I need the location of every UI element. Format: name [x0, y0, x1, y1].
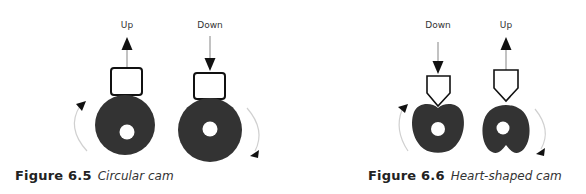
flat-follower — [194, 73, 225, 99]
figure-title: Heart-shaped cam — [451, 169, 562, 183]
cam-diagram: Up Down Down Up — [0, 0, 586, 194]
up-arrow-icon — [122, 37, 133, 50]
heart-cam-down: Down — [398, 20, 464, 153]
cam-shaft-hole — [431, 122, 445, 136]
rotation-arrow-icon — [536, 148, 545, 156]
cam-shaft-hole — [203, 122, 218, 137]
rotation-arc — [535, 109, 545, 149]
pointed-follower — [494, 70, 518, 101]
motion-label-down: Down — [425, 20, 451, 30]
figure-number: Figure 6.5 — [15, 168, 92, 183]
rotation-arc — [399, 110, 408, 151]
figure-caption-6-5: Figure 6.5Circular cam — [15, 168, 174, 183]
figure-title: Circular cam — [98, 169, 174, 183]
rotation-arrow-icon — [398, 104, 408, 113]
motion-label-up: Up — [121, 20, 134, 30]
motion-label-down: Down — [197, 20, 223, 30]
rotation-arrow-icon — [250, 150, 259, 158]
rotation-arc — [247, 108, 259, 151]
rotation-arc — [74, 106, 87, 151]
down-arrow-icon — [433, 61, 444, 74]
circular-cam-down: Down — [178, 20, 259, 162]
heart-cam-up: Up — [482, 20, 545, 156]
up-arrow-icon — [501, 37, 512, 50]
pointed-follower — [427, 76, 450, 106]
cam-shaft-hole — [120, 125, 135, 140]
circular-cam-up: Up — [74, 20, 155, 155]
figure-caption-6-6: Figure 6.6Heart-shaped cam — [368, 168, 562, 183]
flat-follower — [111, 68, 142, 95]
figure-number: Figure 6.6 — [368, 168, 445, 183]
motion-label-up: Up — [500, 20, 513, 30]
down-arrow-icon — [205, 58, 216, 71]
cam-shaft-hole — [497, 122, 510, 135]
